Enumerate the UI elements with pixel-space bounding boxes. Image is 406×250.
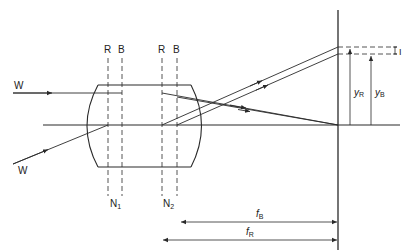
focal-blue-label: fB: [256, 208, 264, 220]
plane1-red-label: R: [104, 44, 111, 55]
image-size-bracket: [393, 47, 397, 54]
principal-planes: [108, 58, 177, 196]
ray-bottom: [13, 47, 338, 164]
image-height-markers: [338, 47, 397, 54]
image-height-blue-label: yB: [374, 87, 385, 98]
chromatic-aberration-diagram: W W R B R B N1 N2 yR yB I fB fR: [0, 0, 406, 250]
ray-top-label: W: [14, 80, 24, 91]
plane2-blue-label: B: [173, 44, 180, 55]
plane2-red-label: R: [158, 44, 165, 55]
focal-red-label: fR: [246, 226, 254, 238]
ray-top: [13, 93, 338, 125]
image-height-red-label: yR: [353, 87, 364, 98]
image-size-label: I: [399, 47, 402, 57]
plane1-blue-label: B: [118, 44, 125, 55]
nodal1-label: N1: [110, 198, 121, 210]
nodal2-label: N2: [163, 198, 174, 210]
ray-bottom-label: W: [18, 165, 28, 176]
